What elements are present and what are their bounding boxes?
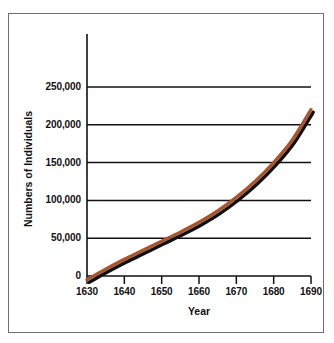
x-tick-label-1640: 1640	[104, 286, 144, 297]
y-tick-label-50000: 50,000	[0, 232, 81, 243]
y-tick-label-0: 0	[0, 270, 81, 281]
gridlines-group	[87, 87, 311, 276]
y-tick-label-250000: 250,000	[0, 81, 81, 92]
x-tick-label-1680: 1680	[254, 286, 294, 297]
y-tick-label-200000: 200,000	[0, 119, 81, 130]
y-tick-label-150000: 150,000	[0, 157, 81, 168]
x-tick-label-1670: 1670	[216, 286, 256, 297]
x-tick-label-1660: 1660	[179, 286, 219, 297]
data-line-population	[87, 110, 311, 280]
x-tick-label-1630: 1630	[67, 286, 107, 297]
y-axis-title: Numbers of Individuals	[22, 99, 34, 239]
x-tick-label-1690: 1690	[291, 286, 331, 297]
x-axis-title: Year	[87, 305, 311, 317]
chart-figure: 050,000100,000150,000200,000250,000 1630…	[0, 0, 334, 343]
data-line-shadow	[89, 112, 313, 282]
x-tick-label-1650: 1650	[142, 286, 182, 297]
x-tick-marks-group	[87, 276, 311, 284]
y-tick-label-100000: 100,000	[0, 194, 81, 205]
